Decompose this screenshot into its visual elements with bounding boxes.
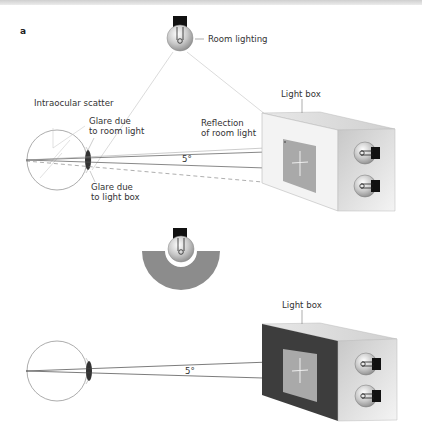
light-box-bottom [262, 323, 397, 421]
shielded-room-light-icon [142, 228, 220, 290]
reflection-label-2: of room light [201, 128, 257, 138]
glare-room-label-1: Glare due [89, 116, 131, 126]
angle-label-top: 5° [182, 154, 192, 164]
glare-room-label-2: to room light [89, 126, 145, 136]
panel-label: a [20, 26, 26, 36]
light-box-label-bottom: Light box [282, 300, 322, 310]
room-light-icon [167, 16, 193, 51]
intraocular-scatter-label: Intraocular scatter [34, 98, 114, 108]
room-lighting-label: Room lighting [208, 34, 268, 44]
glare-diagram: a Room lighting Intraocular scatter Glar… [0, 0, 422, 443]
glare-box-label-2: to light box [91, 192, 140, 202]
light-box-label-top: Light box [281, 89, 321, 99]
light-box-top [262, 112, 395, 211]
angle-label-bottom: 5° [185, 366, 195, 376]
reflection-label-1: Reflection [201, 118, 244, 128]
glare-box-label-1: Glare due [91, 182, 133, 192]
